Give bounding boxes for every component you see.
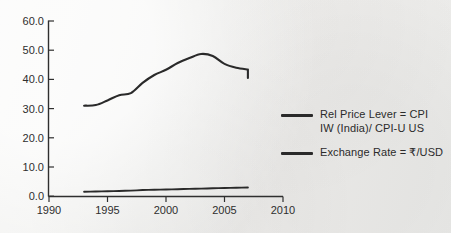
legend-line-swatch [281,152,313,155]
y-tick-label: 50.0 [23,44,44,56]
legend-entry-label: Exchange Rate = ₹/USD [320,146,448,160]
y-tick-label: 40.0 [23,73,44,85]
x-axis-ticks [49,197,283,203]
chart-figure: 60.0 50.0 40.0 30.0 20.0 10.0 0.0 1990 1… [0,0,451,233]
y-axis-ticks [49,21,55,196]
series-line-exchange-rate [84,187,248,191]
legend-entry-label: Rel Price Lever = CPI IW (India)/ CPI-U … [320,108,445,135]
x-tick-label: 2010 [271,204,295,216]
y-tick-label: 10.0 [23,161,44,173]
x-tick-label: 1990 [37,204,61,216]
y-tick-label: 20.0 [23,132,44,144]
y-tick-label: 0.0 [29,190,44,202]
x-tick-label: 1995 [95,204,119,216]
x-tick-label: 2000 [154,204,178,216]
series-line-rel-price-level [84,54,248,106]
y-tick-label: 60.0 [23,15,44,27]
y-tick-label: 30.0 [23,103,44,115]
legend-line-swatch [281,114,313,117]
x-tick-label: 2005 [212,204,236,216]
